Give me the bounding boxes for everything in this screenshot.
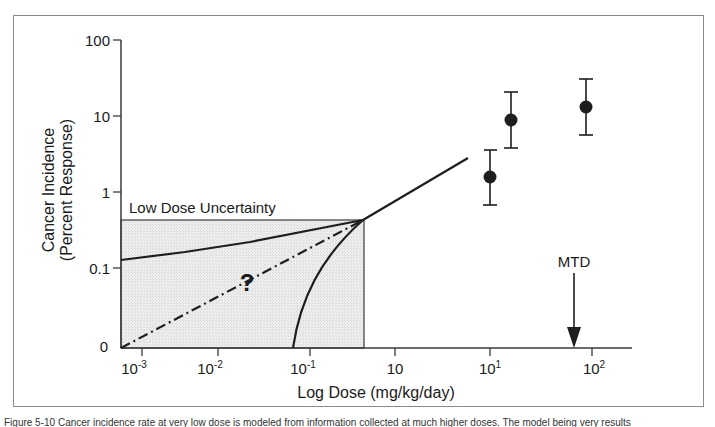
data-point-1: [483, 150, 497, 205]
x-tick-label: 102: [583, 359, 606, 377]
y-axis-title-line1: Cancer Incidence: [40, 128, 57, 253]
y-tick-label: 100: [85, 32, 110, 49]
x-tick-label: 101: [479, 359, 502, 377]
y-tick-label: 0: [100, 338, 108, 355]
data-point-3: [579, 79, 593, 135]
x-tick-label: 10-2: [197, 359, 223, 377]
dose-response-chart: 100 10 1 0.1 0 10-3 10-2 10-1 10 101 102…: [0, 0, 715, 427]
low-dose-uncertainty-label: Low Dose Uncertainty: [129, 199, 276, 216]
y-tick-label: 10: [93, 108, 110, 125]
y-axis-title-line2: (Percent Response): [58, 119, 75, 261]
data-point-2: [504, 92, 518, 148]
mtd-label: MTD: [558, 253, 591, 270]
mtd-arrow-head-icon: [567, 327, 581, 348]
x-tick-label: 10-3: [121, 359, 147, 377]
figure-caption: Figure 5-10 Cancer incidence rate at ver…: [4, 415, 715, 427]
x-tick-labels: 10-3 10-2 10-1 10 101 102: [121, 359, 605, 377]
y-tick-labels: 100 10 1 0.1 0: [85, 32, 110, 355]
x-axis-title: Log Dose (mg/kg/day): [297, 384, 454, 401]
y-tick-label: 0.1: [89, 260, 110, 277]
y-tick-label: 1: [102, 184, 110, 201]
y-axis-title: Cancer Incidence (Percent Response): [40, 119, 75, 261]
x-tick-label: 10-1: [290, 359, 316, 377]
x-tick-label: 10: [387, 360, 404, 377]
y-ticks: [113, 40, 121, 268]
x-ticks: [142, 348, 592, 356]
question-mark: ?: [240, 269, 255, 296]
